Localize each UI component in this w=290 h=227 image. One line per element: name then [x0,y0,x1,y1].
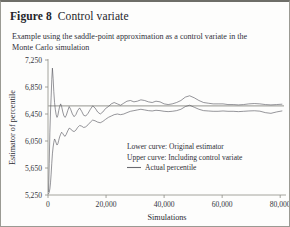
chart-legend: Lower curve: Original estimatorUpper cur… [127,142,243,172]
legend-actual-percentile-label: Actual percentile [145,163,197,172]
legend-lower-curve-note: Lower curve: Original estimator [127,142,224,151]
y-axis-title: Estimator of percentile [8,90,17,165]
chart-series-group [48,68,284,194]
chart-axes [45,59,286,198]
x-tick-label: 20,000 [96,200,117,209]
figure-title: Figure 8Control variate [10,10,129,22]
x-tick-label: 40,000 [154,200,175,209]
figure-caption: Example using the saddle-point approxima… [12,32,270,53]
figure-number: Figure 8 [10,10,52,22]
x-axis-title: Simulations [147,213,186,222]
x-tick-label: 60,000 [212,200,233,209]
y-tick-label: 5,250 [25,191,42,200]
figure-card: Figure 8Control variate Example using th… [0,0,290,227]
chart-labels: 5,2505,6506,0506,4506,8507,250020,00040,… [8,56,290,222]
y-tick-label: 6,850 [25,83,42,92]
line-chart: 5,2505,6506,0506,4506,8507,250020,00040,… [1,54,290,227]
y-tick-label: 7,250 [25,56,42,65]
series-line-upper-curve [49,68,282,192]
x-tick-label: 0 [46,200,50,209]
y-tick-label: 6,050 [25,137,42,146]
figure-title-text: Control variate [58,10,129,22]
x-tick-label: 80,000 [270,200,290,209]
y-tick-label: 5,650 [25,164,42,173]
y-tick-label: 6,450 [25,110,42,119]
chart-plot-area: 5,2505,6506,0506,4506,8507,250020,00040,… [1,54,290,227]
legend-upper-curve-note: Upper curve: Including control variate [127,153,243,162]
